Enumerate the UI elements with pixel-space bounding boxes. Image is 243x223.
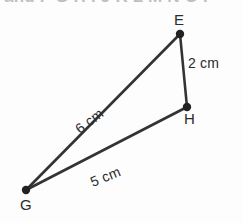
vertex-label-E: E xyxy=(174,11,184,28)
vertex-label-G: G xyxy=(20,196,32,213)
edge-EH-line xyxy=(180,34,187,107)
vertex-label-H: H xyxy=(184,110,195,127)
vertex-G-dot xyxy=(22,186,30,194)
triangle-figure xyxy=(0,0,243,223)
vertex-E-dot xyxy=(176,30,184,38)
edge-GE-line xyxy=(26,34,180,190)
measure-label-eh: 2 cm xyxy=(188,55,219,71)
geometry-diagram: and F G H I J K L M N O P E H G 2 cm 6 c… xyxy=(0,0,243,223)
